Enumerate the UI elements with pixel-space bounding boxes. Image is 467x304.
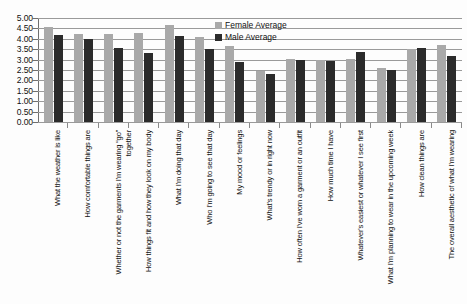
chart-legend: Female Average Male Average <box>215 20 287 44</box>
legend-swatch-male-icon <box>215 34 222 41</box>
y-axis-tick-mark <box>32 91 38 92</box>
bar <box>104 34 113 122</box>
bar-group <box>38 18 68 122</box>
y-axis-tick-labels: 0.000.501.001.502.002.503.003.504.004.50… <box>0 0 36 140</box>
y-axis-tick-label: 1.50 <box>17 87 33 96</box>
x-axis-tick-cell <box>432 123 462 128</box>
x-axis-category-cell: How comfortable things are <box>68 130 98 302</box>
y-axis-tick-mark <box>32 39 38 40</box>
x-axis-category-cell: Whatever's easiest or whatever I see fir… <box>341 130 371 302</box>
x-axis-ticks <box>38 123 462 128</box>
bar <box>195 37 204 122</box>
x-axis-category-cell: How much time I have <box>311 130 341 302</box>
x-axis-category-cell: How often I've worn a garment or an outf… <box>280 130 310 302</box>
y-axis-tick-mark <box>32 122 38 123</box>
bar <box>447 56 456 122</box>
x-axis-category-cell: My mood or feelings <box>220 130 250 302</box>
x-axis-category-cell: What the weather is like <box>38 130 68 302</box>
x-axis-category-cell: How things fit and how they look on my b… <box>129 130 159 302</box>
x-axis-tick-cell <box>250 123 280 128</box>
y-axis-tick-label: 1.00 <box>17 97 33 106</box>
bar <box>326 61 335 122</box>
bar-group <box>129 18 159 122</box>
x-axis-tick-cell <box>311 123 341 128</box>
x-axis-tick-cell <box>189 123 219 128</box>
y-axis-tick-label: 4.00 <box>17 35 33 44</box>
bar <box>74 34 83 122</box>
bar <box>84 39 93 122</box>
bar <box>256 71 265 122</box>
y-axis-tick-mark <box>32 18 38 19</box>
y-axis-tick-mark <box>32 101 38 102</box>
y-axis-tick-mark <box>32 28 38 29</box>
x-axis-category-label: The overall aesthetic of what I'm wearin… <box>447 130 457 298</box>
legend-item-male: Male Average <box>215 32 287 42</box>
x-axis-category-label: Who I'm going to see that day <box>205 130 215 298</box>
x-axis-tick-cell <box>371 123 401 128</box>
x-axis-category-label: How much time I have <box>326 130 336 298</box>
x-axis-tick-cell <box>38 123 68 128</box>
x-axis-category-cell: Who I'm going to see that day <box>189 130 219 302</box>
bar <box>346 59 355 122</box>
x-axis-category-cell: What I'm planning to wear in the upcomin… <box>371 130 401 302</box>
x-axis-category-cell: Whether or not the garments I'm wearing … <box>99 130 129 302</box>
bar <box>44 27 53 122</box>
y-axis-tick-mark <box>32 49 38 50</box>
legend-label-female: Female Average <box>225 20 287 30</box>
x-axis-category-label: What I'm doing that day <box>174 130 184 298</box>
x-axis-tick-cell <box>99 123 129 128</box>
bar <box>296 60 305 122</box>
legend-swatch-female-icon <box>215 22 222 29</box>
x-axis-tick-cell <box>341 123 371 128</box>
y-axis-tick-label: 2.00 <box>17 76 33 85</box>
y-axis-tick-mark <box>32 80 38 81</box>
bar <box>407 49 416 122</box>
x-axis-category-label: How things fit and how they look on my b… <box>144 130 154 298</box>
x-axis-category-label: Whatever's easiest or whatever I see fir… <box>356 130 366 298</box>
bar-group <box>371 18 401 122</box>
y-axis-tick-label: 2.50 <box>17 66 33 75</box>
y-axis-tick-label: 0.50 <box>17 107 33 116</box>
x-axis-category-cell: The overall aesthetic of what I'm wearin… <box>432 130 462 302</box>
x-axis-tick-cell <box>280 123 310 128</box>
bar-group <box>159 18 189 122</box>
y-axis-tick-mark <box>32 70 38 71</box>
x-axis-tick-cell <box>68 123 98 128</box>
bar <box>175 36 184 122</box>
x-axis-category-cell: What's trendy or in right now <box>250 130 280 302</box>
x-axis-category-label: How clean things are <box>417 130 427 298</box>
bar-group <box>99 18 129 122</box>
bar <box>316 60 325 122</box>
bar <box>387 70 396 122</box>
plot-wrapper: 0.000.501.001.502.002.503.003.504.004.50… <box>0 0 467 140</box>
bar-group <box>341 18 371 122</box>
bar <box>235 62 244 122</box>
bar <box>356 52 365 122</box>
bar-group <box>432 18 462 122</box>
bar <box>134 33 143 122</box>
y-axis-tick-label: 4.50 <box>17 24 33 33</box>
legend-label-male: Male Average <box>225 32 277 42</box>
y-axis-tick-mark <box>32 60 38 61</box>
x-axis-tick-cell <box>401 123 431 128</box>
bar <box>286 59 295 122</box>
y-axis-tick-label: 3.50 <box>17 45 33 54</box>
bar <box>165 25 174 122</box>
y-axis-tick-label: 5.00 <box>17 14 33 23</box>
x-axis-category-label: How comfortable things are <box>83 130 93 298</box>
x-axis-category-cell: What I'm doing that day <box>159 130 189 302</box>
x-axis-category-cell: How clean things are <box>401 130 431 302</box>
x-axis-tick-cell <box>220 123 250 128</box>
x-axis-category-labels: What the weather is likeHow comfortable … <box>38 130 462 302</box>
bar <box>266 74 275 122</box>
bar <box>377 68 386 122</box>
x-axis-tick-cell <box>129 123 159 128</box>
legend-item-female: Female Average <box>215 20 287 30</box>
bar <box>54 35 63 122</box>
bar <box>114 48 123 122</box>
x-axis-category-label: What I'm planning to wear in the upcomin… <box>386 130 396 298</box>
x-axis-category-label: How often I've worn a garment or an outf… <box>295 130 305 298</box>
bar <box>417 48 426 122</box>
x-axis-category-label: My mood or feelings <box>235 130 245 298</box>
y-axis-tick-mark <box>32 112 38 113</box>
